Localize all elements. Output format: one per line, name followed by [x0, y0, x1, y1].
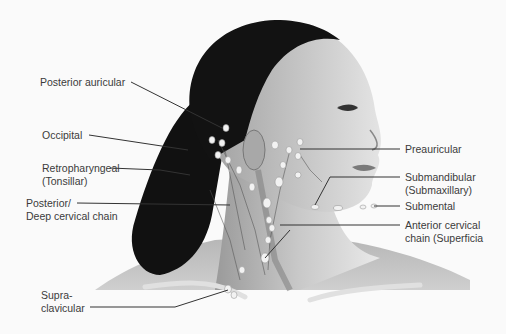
label-supraclavicular: Supra- clavicular [41, 289, 85, 315]
label-posterior-deep-cervical: Posterior/ Deep cervical chain [26, 197, 118, 223]
label-anterior-cervical: Anterior cervical chain (Superficia [405, 219, 483, 245]
lymph-node-diagram: Posterior auricular Occipital Retrophary… [0, 0, 506, 334]
ear [243, 130, 265, 170]
label-retropharyngeal: Retropharyngeal (Tonsillar) [42, 162, 120, 188]
label-submandibular: Submandibular (Submaxillary) [405, 171, 476, 197]
label-preauricular: Preauricular [405, 143, 462, 156]
label-posterior-auricular: Posterior auricular [40, 76, 125, 89]
label-occipital: Occipital [42, 129, 82, 142]
label-submental: Submental [405, 200, 455, 213]
